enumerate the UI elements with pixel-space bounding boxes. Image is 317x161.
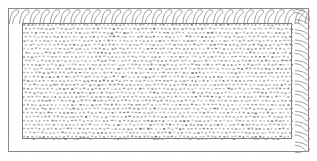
inner-stipple-region [22,23,292,139]
inner-stipple-layer [23,24,293,140]
figure-canvas [0,0,317,161]
